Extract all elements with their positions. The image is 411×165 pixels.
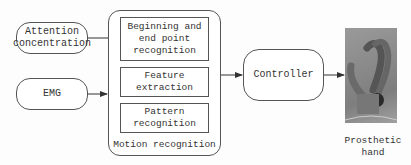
motion-recognition-title: Motion recognition xyxy=(109,139,220,150)
pattern-recognition-step: Pattern recognition xyxy=(120,103,209,133)
prosthetic-hand-image xyxy=(345,28,397,123)
prosthetic-hand-caption: Prosthetic hand xyxy=(340,135,406,159)
attention-concentration-label: Attention concentration xyxy=(13,26,91,50)
attention-concentration-node: Attention concentration xyxy=(16,22,88,54)
emg-label: EMG xyxy=(43,88,61,100)
step-label: Beginning and end point recognition xyxy=(121,21,208,57)
feature-extraction-step: Feature extraction xyxy=(120,67,209,97)
beginning-end-point-recognition-step: Beginning and end point recognition xyxy=(120,17,209,61)
controller-label: Controller xyxy=(253,69,313,81)
controller-node: Controller xyxy=(243,49,324,101)
motion-recognition-group: Beginning and end point recognition Feat… xyxy=(108,10,221,156)
step-label: Feature extraction xyxy=(121,70,208,94)
prosthetic-hand-icon xyxy=(345,28,397,123)
step-label: Pattern recognition xyxy=(121,106,208,130)
emg-node: EMG xyxy=(16,78,88,110)
